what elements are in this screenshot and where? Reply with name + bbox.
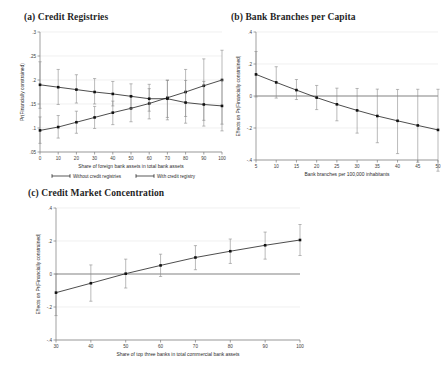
data-point-marker — [57, 126, 60, 129]
data-point-marker — [124, 272, 127, 275]
x-axis-tick-label: 5 — [255, 164, 258, 169]
data-point-marker — [229, 250, 232, 253]
y-axis-tick-label: 0 — [249, 94, 252, 99]
data-point-marker — [275, 81, 278, 84]
y-axis-tick-label: .2 — [32, 78, 36, 83]
data-point-marker — [148, 97, 151, 100]
y-axis-tick-label: .4 — [248, 30, 252, 35]
series-line — [256, 74, 438, 130]
x-axis-tick-label: 80 — [228, 344, 234, 349]
panel-a: (a) Credit Registries .05.1.15.2.25.3010… — [14, 8, 228, 186]
data-point-marker — [75, 121, 78, 124]
x-axis-title: Share of top three banks in total commer… — [116, 352, 240, 357]
x-axis-tick-label: 15 — [294, 164, 300, 169]
data-point-marker — [299, 239, 302, 242]
data-point-marker — [295, 89, 298, 92]
x-axis-tick-label: 80 — [183, 156, 189, 161]
x-axis-title: Share of foreign bank assets in total ba… — [78, 164, 184, 169]
data-point-marker — [184, 101, 187, 104]
x-axis-tick-label: 25 — [334, 164, 340, 169]
data-point-marker — [159, 264, 162, 267]
y-axis-title: Effects on Pr(Financially constrained) — [36, 233, 41, 314]
panel-b-title: (b) Bank Branches per Capita — [231, 12, 356, 22]
x-axis-tick-label: 90 — [201, 156, 207, 161]
data-point-marker — [416, 124, 419, 127]
panel-b-svg: -.4-.20.2.45101520253035404550Bank branc… — [230, 26, 444, 186]
panel-c-svg: -.4-.20.2.430405060708090100Share of top… — [26, 202, 310, 370]
x-axis-tick-label: 70 — [165, 156, 171, 161]
x-axis-tick-label: 90 — [263, 344, 269, 349]
panel-c: (c) Credit Market Concentration -.4-.20.… — [26, 186, 310, 372]
data-point-marker — [93, 116, 96, 119]
data-point-marker — [90, 282, 93, 285]
x-axis-tick-label: 10 — [274, 164, 280, 169]
x-axis-tick-label: 40 — [110, 156, 116, 161]
x-axis-tick-label: 40 — [88, 344, 94, 349]
data-point-marker — [203, 103, 206, 106]
x-axis-tick-label: 100 — [218, 156, 226, 161]
y-axis-tick-label: .3 — [32, 30, 36, 35]
y-axis-tick-label: .15 — [30, 102, 37, 107]
data-point-marker — [255, 73, 258, 76]
data-point-marker — [93, 91, 96, 94]
y-axis-tick-label: .25 — [30, 54, 37, 59]
data-point-marker — [112, 93, 115, 96]
data-point-marker — [166, 97, 169, 100]
y-axis-tick-label: -.2 — [247, 126, 253, 131]
x-axis-tick-label: 0 — [39, 156, 42, 161]
y-axis-title: Pr(Financially constrained) — [20, 63, 25, 121]
data-point-marker — [39, 84, 42, 87]
data-point-marker — [112, 111, 115, 114]
data-point-marker — [356, 109, 359, 112]
data-point-marker — [315, 96, 318, 99]
panel-a-plot: .05.1.15.2.25.30102030405060708090100Sha… — [14, 26, 228, 186]
x-axis-tick-label: 45 — [415, 164, 421, 169]
y-axis-tick-label: .05 — [30, 150, 37, 155]
legend-label-2: With credit registry — [157, 174, 196, 179]
data-point-marker — [55, 291, 58, 294]
x-axis-tick-label: 20 — [74, 156, 80, 161]
y-axis-tick-label: -.4 — [47, 338, 53, 343]
y-axis-tick-label: .2 — [248, 62, 252, 67]
y-axis-tick-label: -.2 — [47, 305, 53, 310]
panel-b-plot: -.4-.20.2.45101520253035404550Bank branc… — [230, 26, 444, 186]
x-axis-tick-label: 35 — [375, 164, 381, 169]
panel-b: (b) Bank Branches per Capita -.4-.20.2.4… — [230, 8, 444, 186]
panel-c-plot: -.4-.20.2.430405060708090100Share of top… — [26, 202, 310, 370]
data-point-marker — [376, 115, 379, 118]
data-point-marker — [437, 129, 440, 132]
x-axis-title: Bank branches per 100,000 inhabitants — [304, 172, 390, 177]
y-axis-title: Effects on Pr(Financially constrained) — [236, 55, 241, 136]
x-axis-tick-label: 100 — [296, 344, 304, 349]
panel-c-title: (c) Credit Market Concentration — [28, 188, 164, 198]
data-point-marker — [396, 120, 399, 123]
x-axis-tick-label: 50 — [128, 156, 134, 161]
y-axis-tick-label: .1 — [32, 126, 36, 131]
data-point-marker — [57, 86, 60, 89]
panel-a-svg: .05.1.15.2.25.30102030405060708090100Sha… — [14, 26, 228, 186]
x-axis-tick-label: 60 — [147, 156, 153, 161]
x-axis-tick-label: 60 — [158, 344, 164, 349]
x-axis-tick-label: 70 — [193, 344, 199, 349]
data-point-marker — [221, 105, 224, 108]
y-axis-tick-label: .2 — [48, 239, 52, 244]
x-axis-tick-label: 30 — [92, 156, 98, 161]
x-axis-tick-label: 30 — [53, 344, 59, 349]
x-axis-tick-label: 20 — [314, 164, 320, 169]
legend-label-1: Without credit registries — [73, 174, 122, 179]
x-axis-tick-label: 40 — [395, 164, 401, 169]
data-point-marker — [194, 256, 197, 259]
x-axis-tick-label: 50 — [123, 344, 129, 349]
data-point-marker — [264, 244, 267, 247]
x-axis-tick-label: 10 — [56, 156, 62, 161]
x-axis-tick-label: 30 — [355, 164, 361, 169]
data-point-marker — [130, 95, 133, 98]
y-axis-tick-label: -.4 — [247, 158, 253, 163]
data-point-marker — [336, 103, 339, 106]
y-axis-tick-label: 0 — [49, 272, 52, 277]
data-point-marker — [39, 129, 42, 132]
y-axis-tick-label: .4 — [48, 206, 52, 211]
figure-root: (a) Credit Registries .05.1.15.2.25.3010… — [0, 0, 446, 375]
data-point-marker — [75, 88, 78, 91]
series-line — [56, 240, 300, 293]
